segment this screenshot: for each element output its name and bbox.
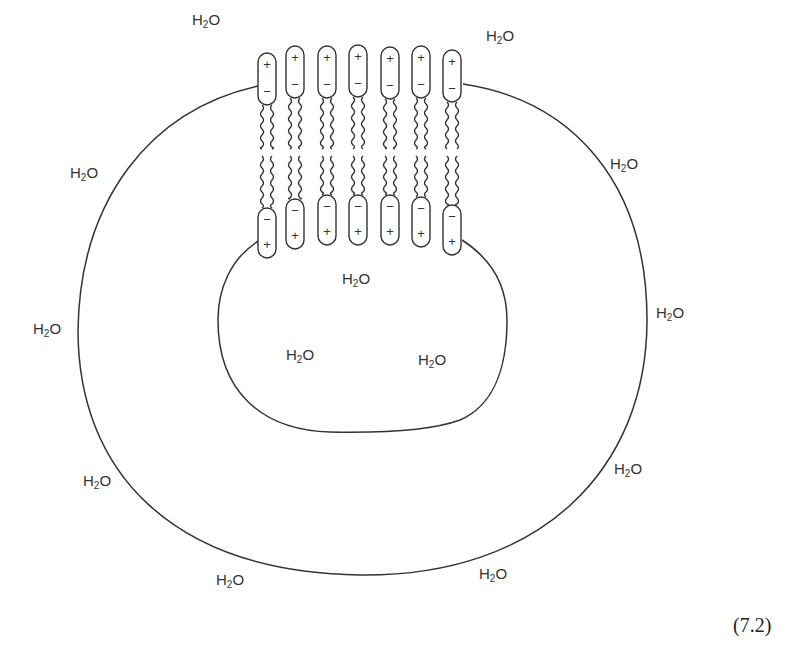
plus-charge-icon: + bbox=[323, 50, 331, 65]
plus-charge-icon: + bbox=[417, 50, 425, 65]
minus-charge-icon: − bbox=[323, 199, 331, 214]
water-label: H2O bbox=[83, 473, 111, 491]
plus-charge-icon: + bbox=[417, 226, 425, 241]
plus-charge-icon: + bbox=[354, 49, 362, 64]
water-label: H2O bbox=[486, 28, 514, 46]
equation-number: (7.2) bbox=[733, 614, 771, 637]
inner-boundary bbox=[218, 240, 507, 432]
fatty-acid-tail bbox=[261, 156, 264, 208]
plus-charge-icon: + bbox=[386, 224, 394, 239]
water-label: H2O bbox=[614, 461, 642, 479]
water-label: H2O bbox=[610, 156, 638, 174]
minus-charge-icon: − bbox=[263, 84, 271, 99]
minus-charge-icon: − bbox=[263, 212, 271, 227]
water-label: H2O bbox=[656, 305, 684, 323]
minus-charge-icon: − bbox=[386, 78, 394, 93]
diagram-canvas: +−−++−−++−−++−−++−−++−−++−−+ bbox=[0, 0, 786, 651]
fatty-acid-tail bbox=[384, 99, 387, 149]
fatty-acid-tail bbox=[446, 156, 449, 205]
plus-charge-icon: + bbox=[354, 224, 362, 239]
fatty-acid-tail bbox=[362, 156, 365, 195]
bilayer-vesicle-diagram: +−−++−−++−−++−−++−−++−−++−−+ H2OH2OH2OH2… bbox=[0, 0, 786, 651]
fatty-acid-tail bbox=[415, 156, 418, 197]
minus-charge-icon: − bbox=[354, 199, 362, 214]
phospholipid-molecules: +−−++−−++−−++−−++−−++−−++−−+ bbox=[258, 45, 461, 258]
minus-charge-icon: − bbox=[291, 77, 299, 92]
minus-charge-icon: − bbox=[354, 76, 362, 91]
plus-charge-icon: + bbox=[263, 237, 271, 252]
minus-charge-icon: − bbox=[417, 77, 425, 92]
water-label: H2O bbox=[216, 572, 244, 590]
minus-charge-icon: − bbox=[417, 201, 425, 216]
fatty-acid-tail bbox=[352, 97, 355, 149]
plus-charge-icon: + bbox=[448, 234, 456, 249]
fatty-acid-tail bbox=[394, 99, 397, 149]
minus-charge-icon: − bbox=[448, 81, 456, 96]
fatty-acid-tail bbox=[271, 156, 274, 208]
water-label: H2O bbox=[479, 566, 507, 584]
minus-charge-icon: − bbox=[323, 77, 331, 92]
fatty-acid-tail bbox=[331, 98, 334, 149]
plus-charge-icon: + bbox=[386, 51, 394, 66]
fatty-acid-tail bbox=[425, 156, 428, 197]
minus-charge-icon: − bbox=[291, 203, 299, 218]
fatty-acid-tail bbox=[289, 98, 292, 149]
fatty-acid-tail bbox=[331, 156, 334, 195]
fatty-acid-tail bbox=[415, 98, 418, 149]
water-label: H2O bbox=[286, 347, 314, 365]
fatty-acid-tail bbox=[299, 98, 302, 149]
plus-charge-icon: + bbox=[448, 54, 456, 69]
fatty-acid-tail bbox=[321, 98, 324, 149]
fatty-acid-tail bbox=[456, 156, 459, 205]
water-label: H2O bbox=[418, 352, 446, 370]
fatty-acid-tail bbox=[321, 156, 324, 195]
fatty-acid-tail bbox=[261, 105, 264, 149]
fatty-acid-tail bbox=[384, 156, 387, 195]
fatty-acid-tail bbox=[352, 156, 355, 195]
fatty-acid-tail bbox=[299, 156, 302, 199]
fatty-acid-tail bbox=[456, 102, 459, 149]
minus-charge-icon: − bbox=[448, 209, 456, 224]
minus-charge-icon: − bbox=[386, 199, 394, 214]
fatty-acid-tail bbox=[362, 97, 365, 149]
fatty-acid-tail bbox=[289, 156, 292, 199]
fatty-acid-tail bbox=[446, 102, 449, 149]
plus-charge-icon: + bbox=[291, 50, 299, 65]
water-label: H2O bbox=[33, 321, 61, 339]
water-label: H2O bbox=[342, 271, 370, 289]
plus-charge-icon: + bbox=[323, 224, 331, 239]
fatty-acid-tail bbox=[425, 98, 428, 149]
plus-charge-icon: + bbox=[291, 228, 299, 243]
water-label: H2O bbox=[192, 12, 220, 30]
plus-charge-icon: + bbox=[263, 57, 271, 72]
fatty-acid-tail bbox=[271, 105, 274, 149]
fatty-acid-tail bbox=[394, 156, 397, 195]
water-label: H2O bbox=[70, 165, 98, 183]
